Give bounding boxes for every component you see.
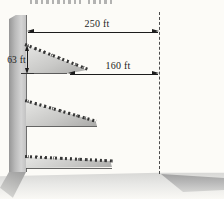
dim-250-arrowhead-left [27, 29, 34, 33]
dim-250-line [28, 32, 158, 33]
ledge-middle-bottom-edge [26, 126, 97, 127]
dim-160-arrowhead-right [152, 71, 159, 75]
dim-160-label: 160 ft [93, 61, 143, 71]
dim-250-label: 250 ft [72, 19, 122, 29]
dim-63-label: 63 ft [3, 55, 30, 65]
dim-160-line [70, 74, 158, 75]
dim-63-extension-tick [21, 73, 34, 74]
clipped-text-fragment [88, 0, 112, 4]
dim-250-arrowhead-right [152, 29, 159, 33]
reference-dashed-line [159, 12, 160, 174]
clipped-text-fragment [30, 0, 81, 4]
ledge-bottom-bottom-edge [26, 168, 112, 169]
dim-63-arrowhead-up [25, 45, 29, 51]
dim-160-arrowhead-left [68, 71, 75, 75]
cliff-wall [9, 15, 27, 172]
cliff-ledges-figure: 250 ft 160 ft 63 ft [0, 0, 224, 199]
